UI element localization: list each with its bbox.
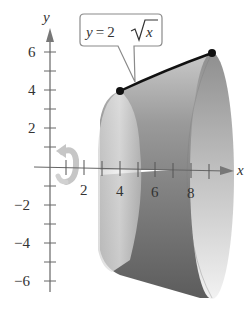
- y-tick-4: 4: [28, 82, 36, 98]
- svg-text:y=2: y=2: [84, 24, 115, 40]
- y-tick-2: 2: [28, 120, 36, 136]
- y-tick-neg4: −4: [14, 235, 30, 251]
- x-tick-4: 4: [116, 183, 124, 199]
- curve-start-point: [116, 87, 124, 95]
- x-tick-2: 2: [80, 182, 88, 198]
- y-axis-label: y: [41, 9, 50, 25]
- equation-callout: y=2 x: [80, 14, 162, 82]
- y-tick-neg2: −2: [14, 197, 30, 213]
- y-axis: y 6 4 2 −2 −4 −6: [14, 9, 56, 292]
- x-axis-label: x: [236, 162, 244, 178]
- solid-of-revolution-figure: y 6 4 2 −2 −4 −6 x: [0, 0, 250, 310]
- x-tick-6: 6: [151, 184, 159, 200]
- x-tick-8: 8: [187, 185, 195, 201]
- callout-radicand: x: [145, 24, 153, 40]
- y-tick-neg6: −6: [14, 273, 30, 289]
- y-tick-6: 6: [28, 44, 36, 60]
- curve-end-point: [208, 49, 216, 57]
- callout-y: y: [84, 24, 93, 40]
